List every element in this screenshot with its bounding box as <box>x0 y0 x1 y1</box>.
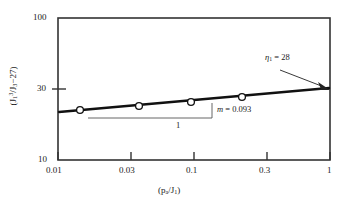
eta-value: = 28 <box>274 52 289 62</box>
x-title-close: ) <box>177 185 180 195</box>
y-tick-label-10: 10 <box>38 155 47 164</box>
y-axis-title-text: (J13/J3−27) <box>8 67 18 106</box>
data-point <box>136 103 143 110</box>
data-point <box>77 107 84 114</box>
y-axis-title: (J13/J3−27) <box>6 36 20 136</box>
y-title-sub1: 1 <box>12 96 18 99</box>
x-tick-label-0-01: 0.01 <box>46 166 62 175</box>
chart-figure: (J13/J3−27) 100 30 10 0.01 0.03 0.1 0.3 … <box>0 0 349 211</box>
y-title-open: (J <box>8 99 18 106</box>
y-title-tail: −27) <box>8 67 18 84</box>
y-title-mid: /J <box>8 87 18 93</box>
eta-annotation: η1 = 28 <box>265 53 290 63</box>
x-tick-label-0-3: 0.3 <box>259 166 270 175</box>
data-point <box>188 99 195 106</box>
x-title-open: (p <box>158 185 166 195</box>
x-tick-label-1: 1 <box>327 166 332 175</box>
y-tick-label-30: 30 <box>37 84 46 93</box>
x-tick-label-0-1: 0.1 <box>186 166 197 175</box>
eta-arrow-shaft <box>280 70 324 87</box>
y-tick-label-100: 100 <box>33 13 47 22</box>
slope-value: = 0.093 <box>225 104 251 114</box>
y-title-sub2: 3 <box>12 84 18 87</box>
eta-leader-arrow <box>280 70 330 90</box>
data-point <box>239 94 246 101</box>
slope-symbol: m <box>217 104 223 114</box>
x-tick-label-0-03: 0.03 <box>119 166 135 175</box>
slope-annotation: m = 0.093 <box>217 105 251 114</box>
x-axis-title: (pa/J1) <box>158 186 180 195</box>
y-title-sup1: 3 <box>8 93 14 96</box>
eta-subscript: 1 <box>269 56 272 62</box>
slope-run-label: 1 <box>176 121 180 130</box>
x-axis-ticks <box>58 152 330 160</box>
plot-frame <box>58 18 330 160</box>
chart-canvas <box>0 0 349 211</box>
